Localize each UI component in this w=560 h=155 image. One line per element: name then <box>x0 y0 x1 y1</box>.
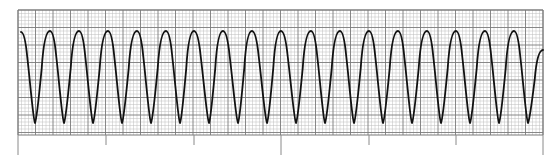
ecg-rhythm-strip <box>0 0 560 155</box>
time-ticks <box>18 135 543 155</box>
